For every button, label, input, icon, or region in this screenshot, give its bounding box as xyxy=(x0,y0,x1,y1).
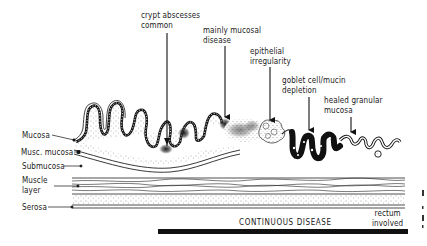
rectum-involved-label: rectum involved xyxy=(372,209,403,228)
continuous-disease-label: CONTINUOUS DISEASE xyxy=(239,218,332,228)
healed-mucosa-zone xyxy=(340,136,400,157)
annotation-crypt-abscesses: crypt abscesses common xyxy=(141,11,200,30)
mucosa-crypts xyxy=(74,100,222,146)
layer-label-submucosa: Submucosa xyxy=(22,162,65,172)
serosa-band xyxy=(72,195,405,208)
layer-label-mucosa: Mucosa xyxy=(22,131,50,141)
mucosal-disease-zone xyxy=(224,118,264,142)
annotation-goblet-depletion: goblet cell/mucin depletion xyxy=(282,76,346,95)
disease-extent-bar xyxy=(158,229,408,234)
annotation-epithelial-irregularity: epithelial irregularity xyxy=(250,47,291,66)
layer-label-serosa: Serosa xyxy=(22,203,47,213)
adjacent-page-fragment xyxy=(422,190,424,228)
muscle-layer-band xyxy=(72,178,405,194)
annotation-healed-mucosa: healed granular mucosa xyxy=(324,96,383,115)
layer-label-muscle: Muscle layer xyxy=(22,176,48,195)
layer-label-musc-mucosa: Musc. mucosa xyxy=(21,148,73,158)
annotation-mucosal-disease: mainly mucosal disease xyxy=(203,26,261,45)
epithelial-irregularity-zone xyxy=(259,120,292,143)
goblet-depletion-zone xyxy=(292,132,340,158)
